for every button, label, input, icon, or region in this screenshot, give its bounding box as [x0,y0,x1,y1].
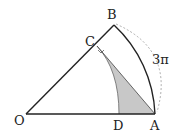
arc-length-label: 3π [152,52,169,67]
label-B: B [107,7,117,22]
geometry-diagram: B C O D A 3π [0,0,177,137]
label-O: O [14,113,25,128]
label-D: D [113,118,123,133]
segment-OB [26,25,114,114]
label-A: A [149,118,160,133]
label-C: C [85,34,95,49]
